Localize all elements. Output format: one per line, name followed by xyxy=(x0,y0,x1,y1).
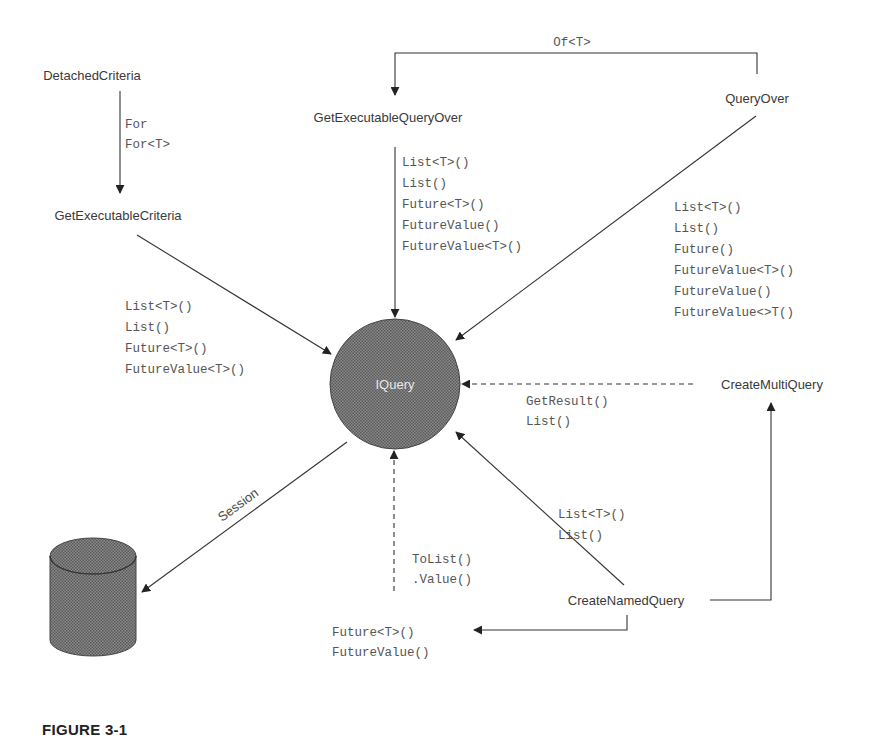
edge-label: List() xyxy=(526,415,571,429)
iquery-diagram: DetachedCriteria For For<T> GetExecutabl… xyxy=(0,0,875,742)
edge-label: FutureValue<T>() xyxy=(125,363,245,377)
edge-label: List() xyxy=(558,529,603,543)
node-get-executable-criteria: GetExecutableCriteria xyxy=(54,208,182,223)
node-queryover: QueryOver xyxy=(725,91,789,106)
edge-label-for: For xyxy=(125,118,148,132)
database-icon xyxy=(50,538,136,656)
edge-label: List<T>() xyxy=(402,156,470,170)
edge-label: List<T>() xyxy=(125,300,193,314)
edge-executable-criteria-to-iquery xyxy=(137,235,331,354)
edge-label: List() xyxy=(402,177,447,191)
node-iquery: IQuery xyxy=(375,377,415,392)
edge-label-of-t: Of<T> xyxy=(553,36,591,50)
edge-label: GetResult() xyxy=(526,395,609,409)
node-detached-criteria: DetachedCriteria xyxy=(43,68,141,83)
edge-label: FutureValue() xyxy=(402,219,500,233)
edge-label: Future() xyxy=(674,243,734,257)
node-create-multiquery: CreateMultiQuery xyxy=(721,377,823,392)
edge-queryover-to-executable-queryover xyxy=(395,53,757,95)
edge-namedquery-to-multiquery xyxy=(710,403,771,600)
edge-label: FutureValue<>T() xyxy=(674,306,794,320)
node-get-executable-queryover: GetExecutableQueryOver xyxy=(314,110,464,125)
edge-label: List() xyxy=(125,321,170,335)
edge-label: FutureValue<T>() xyxy=(674,264,794,278)
edge-label-for-t: For<T> xyxy=(125,138,170,152)
future-label: Future<T>() xyxy=(332,626,415,640)
edge-label: Future<T>() xyxy=(402,198,485,212)
edge-label: .Value() xyxy=(412,573,472,587)
edge-label: ToList() xyxy=(412,553,472,567)
edge-label: FutureValue() xyxy=(674,285,772,299)
edge-namedquery-to-future xyxy=(474,615,627,630)
futurevalue-label: FutureValue() xyxy=(332,646,430,660)
figure-caption: FIGURE 3-1 xyxy=(42,721,128,738)
edge-label: List<T>() xyxy=(674,201,742,215)
edge-iquery-to-database xyxy=(142,442,347,592)
edge-label: Future<T>() xyxy=(125,342,208,356)
node-create-namedquery: CreateNamedQuery xyxy=(568,593,685,608)
edge-label: FutureValue<T>() xyxy=(402,240,522,254)
edge-label: List<T>() xyxy=(558,508,626,522)
edge-label-session: Session xyxy=(215,485,261,524)
edge-label: List() xyxy=(674,222,719,236)
